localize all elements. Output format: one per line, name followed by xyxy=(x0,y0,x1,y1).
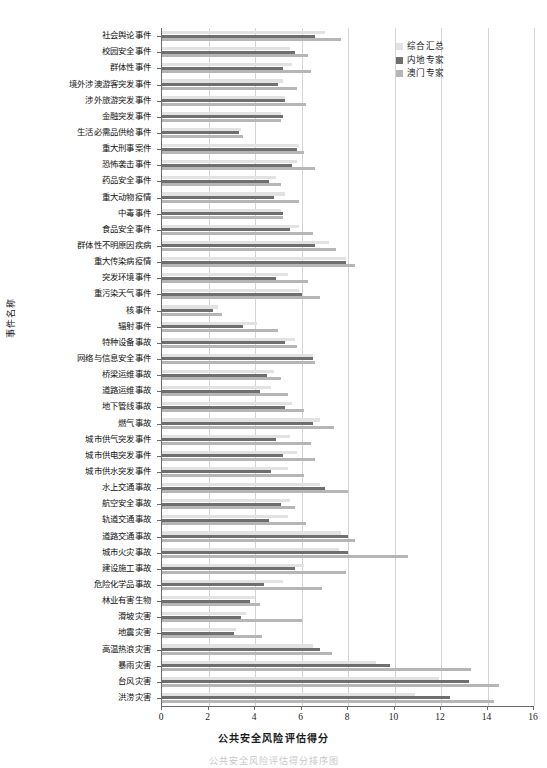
bar-group xyxy=(162,351,534,367)
bar-澳门专家 xyxy=(162,103,306,106)
bar-澳门专家 xyxy=(162,426,334,429)
bar-group xyxy=(162,464,534,480)
bar-group xyxy=(162,157,534,173)
y-axis-tick-label: 突发环境事件 xyxy=(102,273,151,282)
bar-group xyxy=(162,238,534,254)
bar-澳门专家 xyxy=(162,313,222,316)
bar-group xyxy=(162,141,534,157)
bar-澳门专家 xyxy=(162,264,355,267)
bar-group xyxy=(162,222,534,238)
bar-澳门专家 xyxy=(162,361,315,364)
bar-group xyxy=(162,577,534,593)
x-axis-tick-label: 6 xyxy=(286,712,316,722)
bar-澳门专家 xyxy=(162,635,262,638)
bar-澳门专家 xyxy=(162,329,278,332)
x-axis-tick xyxy=(533,706,534,710)
bar-group xyxy=(162,399,534,415)
bar-group xyxy=(162,270,534,286)
bar-澳门专家 xyxy=(162,603,260,606)
chart-legend: 综合汇总内地专家澳门专家 xyxy=(396,40,444,81)
bar-group xyxy=(162,432,534,448)
bar-澳门专家 xyxy=(162,119,281,122)
bar-澳门专家 xyxy=(162,522,306,525)
y-axis-tick-label: 金融突发事件 xyxy=(102,112,151,121)
y-axis-tick-label: 重污染天气事件 xyxy=(94,289,151,298)
y-axis-tick-label: 重大传染病疫情 xyxy=(94,257,151,266)
legend-swatch-icon xyxy=(396,70,403,77)
bar-group xyxy=(162,367,534,383)
bar-group xyxy=(162,496,534,512)
bar-澳门专家 xyxy=(162,652,332,655)
y-axis-tick-label: 涉外旅游突发事件 xyxy=(85,96,151,105)
x-axis-tick xyxy=(440,706,441,710)
y-axis-tick-label: 境外涉澳游客突发事件 xyxy=(69,80,151,89)
y-axis-tick-label: 核事件 xyxy=(126,306,151,315)
y-axis-tick-label: 燃气事故 xyxy=(118,419,151,428)
y-axis-tick-label: 道路交通事故 xyxy=(102,532,151,541)
bars-layer xyxy=(162,28,534,706)
y-axis-tick-label: 地震灾害 xyxy=(118,628,151,637)
bar-澳门专家 xyxy=(162,183,281,186)
y-axis-tick-label: 建设施工事故 xyxy=(102,564,151,573)
bar-澳门专家 xyxy=(162,506,295,509)
figure-caption: 公共安全风险评估得分排序图 xyxy=(0,754,547,766)
y-axis-tick-label: 城市供电突发事件 xyxy=(85,451,151,460)
y-axis-tick-label: 特种设备事故 xyxy=(102,338,151,347)
y-axis-tick-label: 群体性事件 xyxy=(110,63,151,72)
bar-澳门专家 xyxy=(162,377,281,380)
bar-group xyxy=(162,545,534,561)
bar-澳门专家 xyxy=(162,555,408,558)
y-axis-tick-label: 生活必需品供给事件 xyxy=(77,128,151,137)
y-axis-tick-label: 城市供水突发事件 xyxy=(85,467,151,476)
y-axis-tick-label: 水上交通事故 xyxy=(102,483,151,492)
x-axis-tick-label: 2 xyxy=(193,712,223,722)
y-axis-tick-label: 轨道交通事故 xyxy=(102,515,151,524)
y-axis-tick-label: 城市供气突发事件 xyxy=(85,435,151,444)
bar-澳门专家 xyxy=(162,442,311,445)
y-axis-tick-label: 中毒事件 xyxy=(118,209,151,218)
bar-澳门专家 xyxy=(162,70,311,73)
x-axis-tick xyxy=(161,706,162,710)
bar-group xyxy=(162,286,534,302)
y-axis-tick-label: 校园安全事件 xyxy=(102,47,151,56)
x-axis-tick-label: 14 xyxy=(472,712,502,722)
y-axis-labels: 社会舆论事件校园安全事件群体性事件境外涉澳游客突发事件涉外旅游突发事件金融突发事… xyxy=(0,28,157,706)
bar-澳门专家 xyxy=(162,151,304,154)
bar-澳门专家 xyxy=(162,296,320,299)
bar-group xyxy=(162,658,534,674)
x-axis-tick xyxy=(208,706,209,710)
y-axis-tick-label: 社会舆论事件 xyxy=(102,31,151,40)
y-axis-tick-label: 洪涝灾害 xyxy=(118,693,151,702)
y-axis-tick-label: 食品安全事件 xyxy=(102,225,151,234)
bar-澳门专家 xyxy=(162,539,355,542)
legend-label: 内地专家 xyxy=(407,54,444,68)
bar-澳门专家 xyxy=(162,409,304,412)
bar-澳门专家 xyxy=(162,87,297,90)
bar-group xyxy=(162,206,534,222)
x-axis-tick-label: 12 xyxy=(425,712,455,722)
y-axis-tick-label: 道路运维事故 xyxy=(102,386,151,395)
x-axis-title: 公共安全风险评估得分 xyxy=(0,730,547,745)
legend-item[interactable]: 澳门专家 xyxy=(396,67,444,81)
bar-group xyxy=(162,254,534,270)
bar-group xyxy=(162,512,534,528)
x-axis-tick-label: 4 xyxy=(239,712,269,722)
bar-澳门专家 xyxy=(162,684,499,687)
bar-澳门专家 xyxy=(162,216,283,219)
bar-澳门专家 xyxy=(162,571,346,574)
bar-group xyxy=(162,76,534,92)
legend-item[interactable]: 综合汇总 xyxy=(396,40,444,54)
x-axis-tick xyxy=(301,706,302,710)
y-axis-tick-label: 网络与信息安全事件 xyxy=(77,354,151,363)
y-axis-tick-label: 重大刑事案件 xyxy=(102,144,151,153)
bar-group xyxy=(162,625,534,641)
bar-澳门专家 xyxy=(162,474,304,477)
bar-澳门专家 xyxy=(162,167,315,170)
y-axis-tick-label: 恐怖袭击事件 xyxy=(102,160,151,169)
bar-group xyxy=(162,609,534,625)
legend-item[interactable]: 内地专家 xyxy=(396,54,444,68)
bar-group xyxy=(162,44,534,60)
y-axis-tick-label: 台风灾害 xyxy=(118,677,151,686)
bar-澳门专家 xyxy=(162,458,315,461)
y-axis-tick-label: 暴雨灾害 xyxy=(118,661,151,670)
